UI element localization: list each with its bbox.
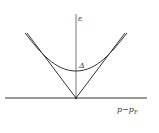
gap-label: Δ xyxy=(78,61,85,70)
x-axis-label: p−pF xyxy=(117,105,138,115)
y-axis-label: ε xyxy=(78,14,82,23)
x-axis-label-main: p−p xyxy=(117,105,134,114)
origin-point xyxy=(75,97,77,99)
dispersion-diagram: ε Δ p−pF xyxy=(0,0,159,133)
x-axis-label-subscript: F xyxy=(134,109,138,115)
